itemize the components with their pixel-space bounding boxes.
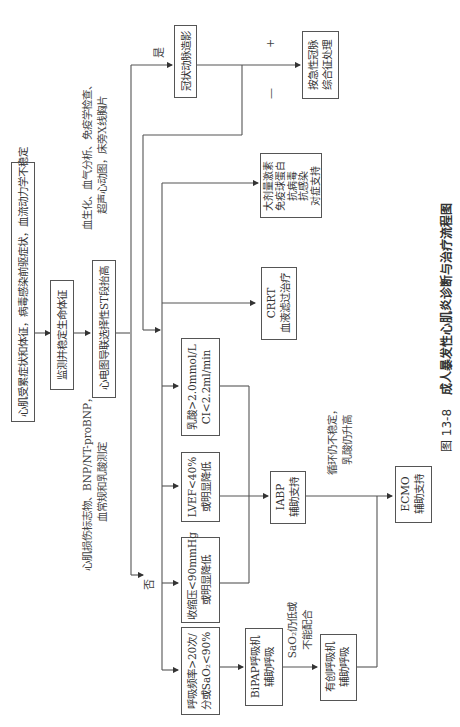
lactate-line-1: 乳酸>2.0mmol/L <box>185 341 199 433</box>
node-lactate: 乳酸>2.0mmol/L CI<2.2ml/min <box>181 338 220 436</box>
drugs-line-4: 抗感染 <box>298 156 310 216</box>
ecmo-line-1: ECMO <box>398 468 412 520</box>
label-plus: + <box>264 39 277 48</box>
note-labs-bottom: 心肌损伤标志物、BNP/NT-proBNP， 血常规和乳酸测定 <box>80 382 109 582</box>
drugs-line-3: 抗病毒 <box>287 156 299 216</box>
labs-top-line-1: 血生化、血气分析、免疫学检查、 <box>80 55 95 255</box>
node-monitor-text: 监测并稳定生命体征 <box>55 285 69 385</box>
node-ecg: 心电图导联选择性ST段抬高 <box>92 260 116 398</box>
node-coronary-text: 冠状动脉造影 <box>179 28 193 94</box>
node-symptoms-text: 心肌受累症状和体征，病毒感染前驱症状，血流动力学不稳定 <box>16 169 30 417</box>
node-sbp: 收缩压<90mmHg 或明显降低 <box>181 537 220 623</box>
node-ecmo-text: ECMO 辅助支持 <box>398 468 426 520</box>
node-iabp: IABP 辅助支持 <box>270 471 306 524</box>
invasive-line-2: 辅助呼吸 <box>337 636 351 698</box>
node-crrt: CRRT 血液滤过治疗 <box>261 267 297 340</box>
node-coronary: 冠状动脉造影 <box>174 25 197 98</box>
node-resp: 呼吸频率>20次/ 分或SaO₂<90% <box>181 627 220 715</box>
crrt-line-1: CRRT <box>264 270 278 336</box>
iabp-line-2: 辅助支持 <box>287 473 301 521</box>
circ-line-2: 乳酸仍升高 <box>340 395 355 485</box>
node-ecmo: ECMO 辅助支持 <box>395 466 432 523</box>
node-invasive: 有创呼吸机 辅助呼吸 <box>320 634 357 701</box>
bipap-line-2: 辅助呼吸 <box>262 631 276 703</box>
figure-title: 成人暴发性心肌炎诊断与治疗流程图 <box>440 203 454 395</box>
node-bipap: BiPAP呼吸机 辅助呼吸 <box>245 628 283 706</box>
invasive-line-1: 有创呼吸机 <box>323 636 337 698</box>
drugs-line-1: 大剂量激素 <box>263 156 275 216</box>
lactate-line-2: CI<2.2ml/min <box>199 341 213 433</box>
node-acs-text: 按急性冠脉 综合征处理 <box>306 35 334 95</box>
crrt-line-2: 血液滤过治疗 <box>278 270 292 336</box>
node-acs: 按急性冠脉 综合征处理 <box>302 31 339 99</box>
sbp-line-2: 或明显降低 <box>199 540 213 620</box>
labs-top-line-2: 超声心动图，床旁X线胸片 <box>95 55 110 255</box>
node-lvef-text: LVEF<40% 或明显降低 <box>185 455 213 519</box>
resp-line-2: 分或SaO₂<90% <box>199 630 213 712</box>
figure-number: 图 13-8 <box>440 409 454 452</box>
note-circ: 循环仍不稳定， 乳酸仍升高 <box>325 395 354 485</box>
figure-caption: 图 13-8成人暴发性心肌炎诊断与治疗流程图 <box>437 203 454 452</box>
label-no: 否 <box>140 579 156 590</box>
labs-bottom-line-1: 心肌损伤标志物、BNP/NT-proBNP， <box>80 382 95 582</box>
drugs-line-2: 免疫球蛋白 <box>275 156 287 216</box>
label-yes: 是 <box>150 47 166 58</box>
sbp-line-1: 收缩压<90mmHg <box>185 540 199 620</box>
node-iabp-text: IABP 辅助支持 <box>273 473 301 521</box>
resp-line-1: 呼吸频率>20次/ <box>185 630 199 712</box>
sao2-line-2: 不能配合 <box>300 595 315 665</box>
node-sbp-text: 收缩压<90mmHg 或明显降低 <box>185 540 213 620</box>
bipap-line-1: BiPAP呼吸机 <box>248 631 262 703</box>
lvef-line-1: LVEF<40% <box>185 455 199 519</box>
node-lactate-text: 乳酸>2.0mmol/L CI<2.2ml/min <box>185 341 213 433</box>
node-lvef: LVEF<40% 或明显降低 <box>181 452 220 522</box>
note-sao2: SaO₂仍低或 不能配合 <box>285 595 314 665</box>
labs-bottom-line-2: 血常规和乳酸测定 <box>95 382 110 582</box>
drugs-line-5: 对症支持 <box>310 156 322 216</box>
acs-line-1: 按急性冠脉 <box>306 35 320 95</box>
node-drugs-text: 大剂量激素 免疫球蛋白 抗病毒 抗感染 对症支持 <box>263 156 322 216</box>
note-labs-top: 血生化、血气分析、免疫学检查、 超声心动图，床旁X线胸片 <box>80 55 109 255</box>
node-symptoms: 心肌受累症状和体征，病毒感染前驱症状，血流动力学不稳定 <box>11 162 35 422</box>
node-invasive-text: 有创呼吸机 辅助呼吸 <box>323 636 351 698</box>
iabp-line-1: IABP <box>273 473 287 521</box>
node-monitor: 监测并稳定生命体征 <box>50 280 74 390</box>
ecmo-line-2: 辅助支持 <box>412 468 426 520</box>
node-ecg-text: 心电图导联选择性ST段抬高 <box>97 263 111 393</box>
node-drugs: 大剂量激素 免疫球蛋白 抗病毒 抗感染 对症支持 <box>260 153 322 218</box>
node-resp-text: 呼吸频率>20次/ 分或SaO₂<90% <box>185 630 213 712</box>
circ-line-1: 循环仍不稳定， <box>325 395 340 485</box>
node-crrt-text: CRRT 血液滤过治疗 <box>264 270 292 336</box>
node-bipap-text: BiPAP呼吸机 辅助呼吸 <box>248 631 276 703</box>
sao2-line-1: SaO₂仍低或 <box>285 595 300 665</box>
acs-line-2: 综合征处理 <box>320 35 334 95</box>
lvef-line-2: 或明显降低 <box>199 455 213 519</box>
label-minus: — <box>264 88 277 99</box>
